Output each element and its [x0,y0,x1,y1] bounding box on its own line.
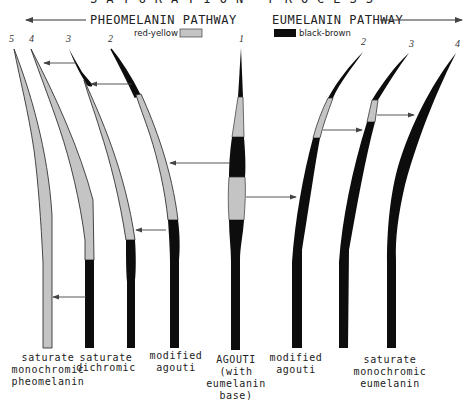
hair-number-p5: 5 [9,33,14,44]
saturation-diagram: SATURATION PROCESS PHEOMELANIN PATHWAY E… [0,0,471,400]
label-e2: modified agouti [270,352,323,375]
label-a1-line-2: (with [219,366,252,377]
label-e4-line-1: saturate [364,354,417,365]
label-p5-line-2: monochromic [12,364,85,375]
label-p3-line-2: dichromic [76,362,136,373]
label-p5: saturate monochromic pheomelanin [12,352,85,387]
hair-number-p4: 4 [29,33,34,44]
diagram-canvas: SATURATION PROCESS PHEOMELANIN PATHWAY E… [0,0,471,400]
label-p2: modified agouti [150,350,203,373]
label-e4: saturate monochromic eumelanin [354,354,427,389]
label-p2-line-1: modified [150,350,203,361]
legend-black-brown: black-brown [274,28,351,38]
eumelanin-pathway-header: EUMELANIN PATHWAY [272,13,462,27]
label-p5-line-3: pheomelanin [12,376,85,387]
label-e4-line-2: monochromic [354,366,427,377]
hair-e4 [387,53,456,348]
pheomelanin-pathway-header: PHEOMELANIN PATHWAY [26,13,237,27]
hair-number-e4: 4 [455,38,460,49]
label-p2-line-2: agouti [156,362,196,373]
label-e2-line-1: modified [270,352,323,363]
hair-number-p2: 2 [108,33,113,44]
hair-p5 [14,49,52,348]
legend-swatch-black [274,29,296,37]
label-a1-line-4: base) [219,390,252,400]
hair-a1-agouti [228,48,245,350]
diagram-title: SATURATION PROCESS [90,0,382,6]
legend-red-yellow-label: red-yellow [134,28,178,38]
legend-black-brown-label: black-brown [299,28,351,38]
hair-number-e2: 2 [361,36,366,47]
legend-swatch-gray [180,29,202,37]
label-p5-line-1: saturate [22,352,75,363]
hair-number-e3: 3 [408,38,414,49]
label-e4-line-3: eumelanin [360,378,420,389]
label-a1-line-3: eumelanin [206,378,266,389]
label-e2-line-2: agouti [276,364,316,375]
hair-number-a1: 1 [239,33,244,44]
label-a1: AGOUTI (with eumelanin base) [206,354,266,400]
legend-red-yellow: red-yellow [134,28,202,38]
label-a1-line-1: AGOUTI [216,354,256,365]
hair-number-p3: 3 [65,33,71,44]
label-p3: saturate dichromic [76,352,136,373]
pheomelanin-label: PHEOMELANIN PATHWAY [90,13,237,27]
